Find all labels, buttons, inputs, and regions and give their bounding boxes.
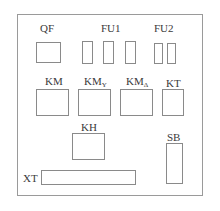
kt-label: KT — [166, 78, 181, 89]
fu2-fuse-1 — [154, 43, 163, 64]
sb-label: SB — [167, 132, 180, 143]
km-y-contactor-box — [78, 89, 111, 116]
kt-timer-box — [162, 89, 184, 116]
fu1-fuse-1 — [82, 41, 93, 64]
fu1-fuse-3 — [125, 41, 136, 64]
xt-terminal-strip — [41, 170, 136, 185]
fu2-label: FU2 — [154, 23, 174, 34]
km-label: KM — [45, 76, 63, 87]
kh-label: KH — [81, 122, 97, 133]
xt-label: XT — [23, 173, 38, 184]
fu1-fuse-2 — [103, 41, 114, 64]
qf-label: QF — [40, 23, 54, 34]
qf-breaker-box — [36, 42, 61, 63]
kh-relay-box — [72, 133, 105, 160]
fu2-fuse-2 — [167, 43, 176, 64]
fu1-label: FU1 — [101, 23, 121, 34]
sb-button-box — [166, 143, 183, 184]
km-delta-contactor-box — [120, 89, 153, 116]
km-contactor-box — [36, 89, 69, 116]
